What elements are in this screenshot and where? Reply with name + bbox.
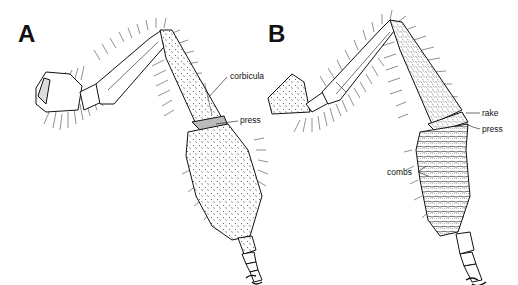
label-combs: combs bbox=[387, 168, 412, 177]
label-corbicula: corbicula bbox=[230, 72, 264, 81]
leg-b-drawing bbox=[268, 10, 486, 285]
bee-leg-figure: A B corbicula press rake press combs bbox=[0, 0, 518, 285]
label-press-b: press bbox=[482, 125, 503, 134]
label-press-a: press bbox=[240, 116, 261, 125]
corbicula-leader-line bbox=[208, 77, 227, 98]
leg-illustrations bbox=[0, 0, 518, 285]
leg-a-drawing bbox=[36, 18, 268, 284]
panel-label-b: B bbox=[268, 22, 285, 46]
panel-label-a: A bbox=[18, 22, 35, 46]
label-rake: rake bbox=[482, 109, 499, 118]
